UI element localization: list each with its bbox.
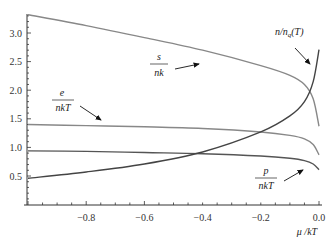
curve-density: [28, 50, 319, 179]
label-p-denominator: nkT: [259, 180, 275, 191]
curve-energy: [28, 125, 319, 155]
curve-pressure: [28, 151, 319, 170]
label-e-numerator: e: [60, 87, 65, 98]
x-tick-label: −0.4: [194, 212, 212, 223]
x-tick-label: −0.6: [135, 212, 153, 223]
arrow-density: [295, 48, 310, 64]
x-tick-label: −0.2: [252, 212, 270, 223]
label-e-denominator: nkT: [56, 102, 72, 113]
label-p-numerator: p: [263, 165, 269, 176]
x-tick-label: 0.0: [313, 212, 326, 223]
arrow-e: [80, 106, 101, 120]
y-tick-label: 2.5: [10, 56, 23, 67]
y-tick-label: 3.0: [10, 28, 23, 39]
y-tick-label: 0.5: [10, 171, 23, 182]
y-tick-label: 1.5: [10, 113, 23, 124]
x-axis-label: μ /kT: [296, 226, 319, 237]
chart: 0.51.01.52.02.53.0−0.8−0.6−0.4−0.20.0μ /…: [0, 0, 332, 237]
arrow-s: [175, 64, 199, 69]
label-s-numerator: s: [157, 51, 161, 62]
arrow-p: [284, 170, 303, 181]
y-tick-label: 1.0: [10, 142, 23, 153]
x-tick-label: −0.8: [77, 212, 95, 223]
label-density: n/nq(T): [275, 26, 304, 39]
y-tick-label: 2.0: [10, 85, 23, 96]
label-s-denominator: nk: [154, 67, 164, 78]
